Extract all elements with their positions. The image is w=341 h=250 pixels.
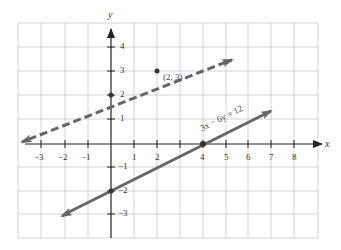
coordinate-graph: y x −3 −2 −1 1 2 4 5 6 7 8 4 3 2 1 −1 −2…	[0, 0, 341, 250]
graph-canvas	[0, 0, 341, 250]
x-tick-label: 6	[246, 153, 251, 162]
axes	[25, 29, 322, 238]
x-tick-label: −3	[34, 153, 44, 162]
x-tick-label: −2	[58, 153, 68, 162]
x-tick-label: 8	[292, 153, 297, 162]
y-axis-label: y	[108, 10, 112, 20]
x-tick-label: 1	[132, 153, 137, 162]
x-tick-label: 7	[269, 153, 274, 162]
y-tick-label: −3	[118, 209, 128, 218]
x-tick-label: 5	[224, 153, 229, 162]
x-axis-label: x	[325, 139, 329, 149]
y-tick-label: 2	[120, 90, 125, 99]
point-label-2-3: (2, 3)	[163, 73, 183, 82]
y-tick-label: −1	[118, 162, 128, 171]
x-tick-label: 4	[200, 153, 205, 162]
y-tick-label: 3	[120, 66, 125, 75]
x-tick-label: 2	[155, 153, 160, 162]
grid	[18, 23, 318, 238]
y-tick-label: −2	[118, 186, 128, 195]
y-tick-label: 4	[120, 42, 125, 51]
solid-line-3x-6y-12	[65, 111, 271, 214]
x-tick-label: −1	[81, 153, 91, 162]
y-tick-label: 1	[120, 114, 125, 123]
